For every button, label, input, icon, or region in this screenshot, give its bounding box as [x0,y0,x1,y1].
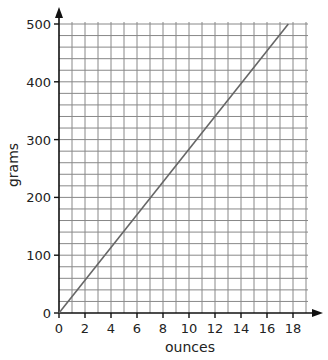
y-tick-label: 300 [26,133,51,148]
grid-lines [59,22,308,313]
y-axis-title: grams [5,143,21,187]
y-tick-label: 100 [26,248,51,263]
conversion-chart: 0246810121416180100200300400500 ounces g… [0,0,328,360]
x-tick-label: 6 [133,321,141,336]
x-tick-label: 10 [181,321,198,336]
y-tick-label: 500 [26,17,51,32]
x-axis-arrow-icon [312,309,323,317]
y-axis-arrow-icon [55,7,63,18]
y-tick-label: 400 [26,75,51,90]
x-tick-label: 4 [107,321,115,336]
x-tick-label: 12 [207,321,224,336]
x-tick-label: 18 [285,321,302,336]
x-tick-label: 8 [159,321,167,336]
tick-labels: 0246810121416180100200300400500 [26,17,301,336]
x-tick-label: 2 [81,321,89,336]
x-tick-label: 16 [259,321,276,336]
x-axis-title: ounces [165,339,215,355]
x-tick-label: 14 [233,321,250,336]
x-tick-label: 0 [55,321,63,336]
y-tick-label: 200 [26,190,51,205]
y-tick-label: 0 [43,306,51,321]
